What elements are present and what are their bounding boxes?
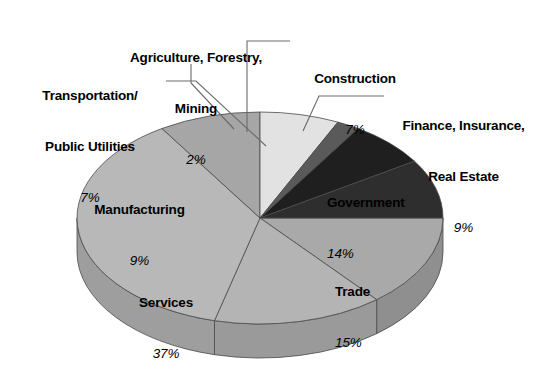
slice-label-finance-name-line2: Real Estate <box>384 169 543 184</box>
slice-label-finance: Finance, Insurance, Real Estate 9% <box>384 82 543 271</box>
slice-label-trade-value: 15% <box>335 335 370 350</box>
slice-label-agriculture: Agriculture, Forestry, Mining 2% <box>106 14 286 203</box>
slice-label-agriculture-value: 2% <box>106 152 286 167</box>
slice-label-services-value: 37% <box>126 346 206 361</box>
slice-label-finance-name-line1: Finance, Insurance, <box>384 118 543 133</box>
slice-label-trade: Trade 15% <box>335 248 370 381</box>
pie-chart-figure: Government 14% Trade 15% Services 37% Ma… <box>0 0 543 381</box>
slice-label-agriculture-name-line2: Mining <box>106 101 286 116</box>
slice-label-manufacturing-value: 9% <box>82 253 197 268</box>
slice-label-finance-value: 9% <box>384 220 543 235</box>
slice-label-trade-name: Trade <box>335 284 370 299</box>
slice-label-agriculture-name-line1: Agriculture, Forestry, <box>106 50 286 65</box>
